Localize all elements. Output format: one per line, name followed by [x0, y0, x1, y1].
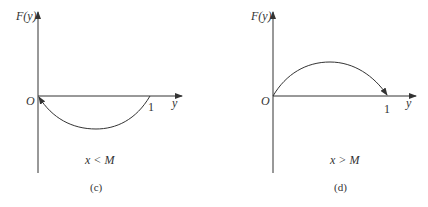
figure-c: F(y) O 1 y x < M (c) — [15, 9, 182, 194]
condition-label: x < M — [84, 153, 115, 167]
curve — [273, 62, 387, 96]
origin-label: O — [26, 94, 35, 108]
x-axis-label: y — [405, 96, 412, 110]
tick-label-1: 1 — [148, 100, 154, 114]
tick-label-1: 1 — [384, 102, 390, 116]
figure-d: F(y) O 1 y x > M (d) — [250, 9, 416, 194]
caption: (c) — [90, 181, 103, 194]
y-axis-label: F(y) — [15, 9, 37, 23]
y-axis-label: F(y) — [250, 9, 272, 23]
diagram-canvas: F(y) O 1 y x < M (c) F(y) O 1 y x > M (d… — [0, 0, 428, 207]
condition-label: x > M — [329, 153, 360, 167]
origin-label: O — [261, 94, 270, 108]
caption: (d) — [334, 181, 347, 194]
curve — [39, 96, 150, 129]
x-axis-label: y — [171, 96, 178, 110]
